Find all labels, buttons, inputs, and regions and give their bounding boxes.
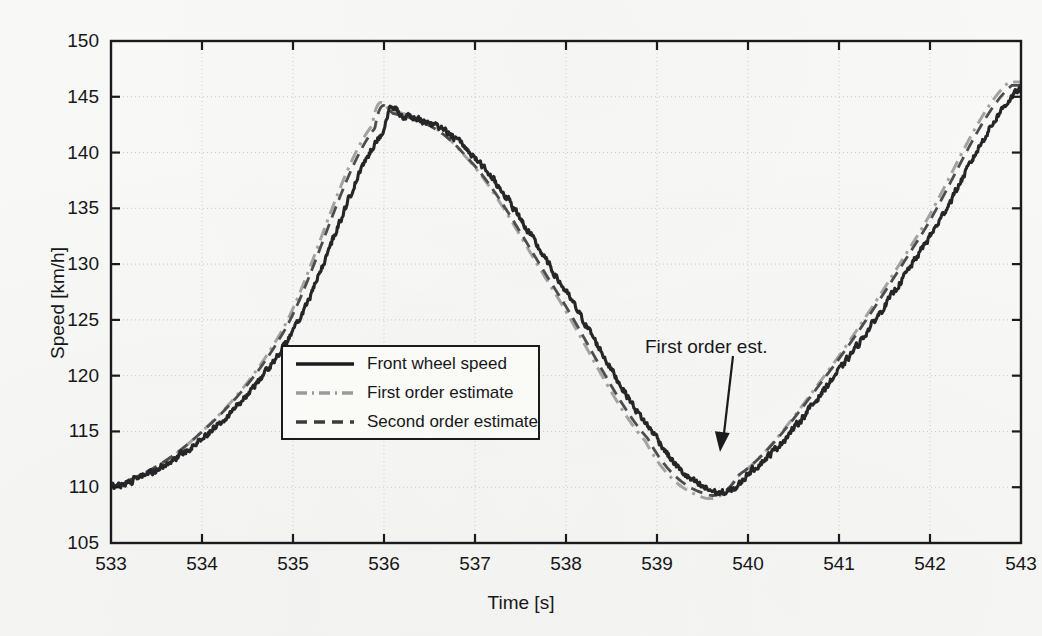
x-tick-label: 535 bbox=[277, 553, 309, 575]
legend-swatch-solid-icon bbox=[295, 357, 355, 371]
y-tick-label: 150 bbox=[7, 30, 99, 52]
annotation-label: First order est. bbox=[645, 336, 767, 358]
legend-swatch-dashed-icon bbox=[295, 415, 355, 429]
y-tick-label: 145 bbox=[7, 86, 99, 108]
x-tick-label: 541 bbox=[823, 553, 855, 575]
legend-swatch-dashdot-icon bbox=[295, 386, 355, 400]
x-tick-label: 536 bbox=[368, 553, 400, 575]
y-tick-label: 140 bbox=[7, 142, 99, 164]
legend-label: Front wheel speed bbox=[367, 354, 507, 374]
legend-item-first-order-estimate: First order estimate bbox=[283, 378, 538, 407]
x-tick-label: 543 bbox=[1005, 553, 1037, 575]
y-tick-label: 115 bbox=[7, 420, 99, 442]
x-axis-title: Time [s] bbox=[0, 592, 1042, 614]
y-tick-label: 120 bbox=[7, 365, 99, 387]
x-tick-label: 542 bbox=[914, 553, 946, 575]
legend-item-second-order-estimate: Second order estimate bbox=[283, 407, 538, 436]
x-tick-label: 539 bbox=[641, 553, 673, 575]
plot-canvas bbox=[0, 0, 1042, 636]
y-tick-label: 130 bbox=[7, 253, 99, 275]
y-tick-label: 105 bbox=[7, 532, 99, 554]
legend-label: First order estimate bbox=[367, 383, 513, 403]
legend-label: Second order estimate bbox=[367, 412, 538, 432]
y-tick-label: 135 bbox=[7, 197, 99, 219]
legend: Front wheel speed First order estimate S… bbox=[281, 345, 540, 440]
annotation-arrow bbox=[715, 356, 733, 452]
y-tick-label: 110 bbox=[7, 476, 99, 498]
x-tick-label: 534 bbox=[186, 553, 218, 575]
x-tick-label: 537 bbox=[459, 553, 491, 575]
series-layer bbox=[111, 82, 1021, 499]
chart-figure: Speed [km/h] Time [s] First order est. F… bbox=[0, 0, 1042, 636]
x-tick-label: 533 bbox=[95, 553, 127, 575]
x-tick-label: 540 bbox=[732, 553, 764, 575]
x-tick-label: 538 bbox=[550, 553, 582, 575]
legend-item-front-wheel-speed: Front wheel speed bbox=[283, 349, 538, 378]
y-tick-label: 125 bbox=[7, 309, 99, 331]
